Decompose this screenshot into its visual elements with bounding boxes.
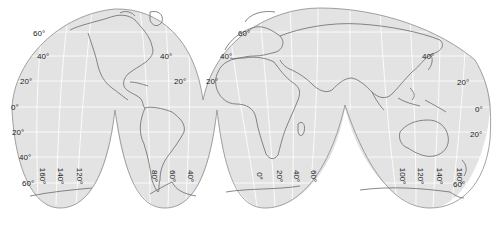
longitude-label: 0° — [255, 172, 263, 180]
latitude-label: 40° — [19, 154, 31, 162]
longitude-label: 120° — [416, 168, 424, 185]
latitude-label: 20° — [457, 79, 469, 87]
latitude-label: 0° — [11, 104, 19, 112]
longitude-label: 60° — [309, 170, 317, 182]
latitude-label: 20° — [470, 131, 482, 139]
latitude-label: 60° — [22, 180, 34, 188]
longitude-label: 160° — [38, 168, 46, 185]
latitude-label: 0° — [475, 106, 483, 114]
lobe-south-america — [115, 108, 217, 208]
longitude-label: 40° — [292, 170, 300, 182]
latitude-label: 60° — [33, 30, 45, 38]
longitude-label: 60° — [168, 170, 176, 182]
latitude-label: 20° — [20, 78, 32, 86]
longitude-label: 40° — [186, 170, 194, 182]
latitude-label: 20° — [206, 78, 218, 86]
latitude-label: 20° — [12, 129, 24, 137]
longitude-label: 100° — [398, 168, 406, 185]
latitude-label: 40° — [37, 53, 49, 61]
longitude-label: 160° — [455, 168, 463, 185]
longitude-label: 20° — [275, 170, 283, 182]
latitude-label: 40° — [422, 53, 434, 61]
latitude-label: 40° — [160, 53, 172, 61]
longitude-label: 120° — [75, 168, 83, 185]
longitude-label: 140° — [435, 168, 443, 185]
latitude-label: 60° — [238, 30, 250, 38]
lobe-oceania-south — [345, 108, 490, 208]
latitude-label: 40° — [220, 53, 232, 61]
longitude-label: 140° — [56, 168, 64, 185]
latitude-label: 20° — [174, 78, 186, 86]
longitude-label: 80° — [150, 170, 158, 182]
lobe-africa-south — [217, 108, 345, 208]
